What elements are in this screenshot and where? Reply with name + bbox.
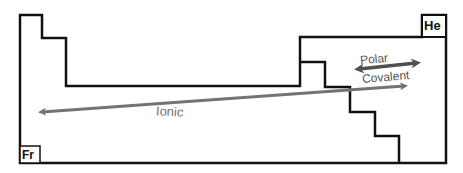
helium-label: He — [424, 18, 441, 33]
polar-label: Polar — [359, 51, 388, 67]
periodic-table-diagram — [0, 0, 463, 173]
francium-label: Fr — [22, 148, 34, 162]
ionic-label: Ionic — [156, 103, 184, 119]
